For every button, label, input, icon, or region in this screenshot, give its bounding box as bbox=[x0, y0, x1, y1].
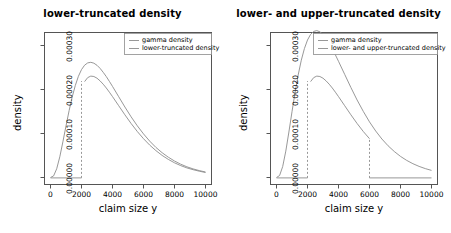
x-tick-label: 6000 bbox=[360, 190, 379, 199]
y-tick-label: 0.00030 bbox=[291, 31, 300, 62]
y-axis-ticks bbox=[267, 46, 271, 178]
x-tick-label: 8000 bbox=[165, 190, 184, 199]
y-tick-label: 0.00000 bbox=[65, 163, 74, 194]
x-tick-label: 6000 bbox=[134, 190, 153, 199]
x-tick-label: 10000 bbox=[420, 190, 444, 199]
y-axis-ticks bbox=[41, 46, 45, 178]
x-axis-ticks bbox=[51, 185, 206, 189]
x-tick-label: 10000 bbox=[194, 190, 218, 199]
legend-item-label: gamma density bbox=[142, 36, 193, 44]
x-tick-label: 2000 bbox=[298, 190, 317, 199]
panel-lower-and-upper-truncated: lower- and upper-truncated density bbox=[226, 0, 451, 233]
x-tick-label: 0 bbox=[274, 190, 279, 199]
y-tick-label: 0.00000 bbox=[291, 163, 300, 194]
x-axis-ticks bbox=[277, 185, 432, 189]
x-axis-title: claim size y bbox=[44, 203, 212, 214]
x-tick-label: 0 bbox=[48, 190, 53, 199]
x-tick-label: 4000 bbox=[329, 190, 348, 199]
x-tick-label: 8000 bbox=[391, 190, 410, 199]
x-axis-title: claim size y bbox=[270, 203, 438, 214]
figure-root: lower-truncated density bbox=[0, 0, 451, 233]
legend-item-label: lower-truncated density bbox=[142, 44, 219, 52]
y-tick-label: 0.00030 bbox=[65, 31, 74, 62]
y-tick-label: 0.00010 bbox=[291, 119, 300, 150]
y-tick-label: 0.00010 bbox=[65, 119, 74, 150]
series-lower-truncated-density-body bbox=[85, 76, 206, 172]
y-tick-label: 0.00020 bbox=[65, 75, 74, 106]
x-tick-label: 4000 bbox=[103, 190, 122, 199]
y-axis-title: density bbox=[12, 94, 23, 131]
y-tick-label: 0.00020 bbox=[291, 75, 300, 106]
legend-item-label: gamma density bbox=[331, 36, 382, 44]
legend-item-label: lower- and upper-truncated density bbox=[331, 44, 446, 52]
panel-lower-truncated: lower-truncated density bbox=[0, 0, 225, 233]
x-tick-label: 2000 bbox=[72, 190, 91, 199]
y-axis-title: density bbox=[238, 94, 249, 131]
